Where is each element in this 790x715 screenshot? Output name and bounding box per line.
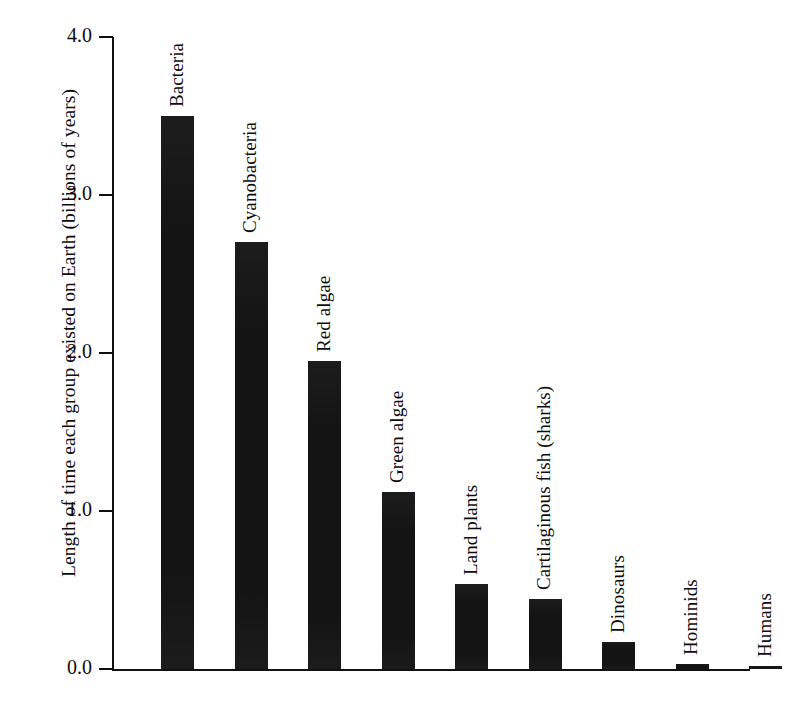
bar	[749, 666, 782, 669]
bar	[529, 599, 562, 669]
bar	[602, 642, 635, 669]
bar-category-label: Red algae	[313, 276, 333, 352]
bar	[308, 361, 341, 669]
bar	[382, 492, 415, 669]
bar	[676, 664, 709, 669]
bar-category-label: Dinosaurs	[607, 555, 627, 633]
bar-category-label: Land plants	[460, 484, 480, 574]
bar-category-label: Cyanobacteria	[239, 122, 259, 233]
bar	[455, 584, 488, 669]
bar	[161, 116, 194, 669]
bar-category-label: Hominids	[680, 579, 700, 655]
bar-category-label: Green algae	[386, 391, 406, 483]
bar-category-label: Bacteria	[166, 43, 186, 107]
bar-category-label: Cartilaginous fish (sharks)	[533, 386, 553, 590]
bar-category-label: Humans	[754, 593, 774, 657]
bar-chart: Length of time each group existed on Ear…	[0, 0, 790, 715]
plot-area: BacteriaCyanobacteriaRed algaeGreen alga…	[0, 0, 790, 715]
bar	[235, 242, 268, 669]
